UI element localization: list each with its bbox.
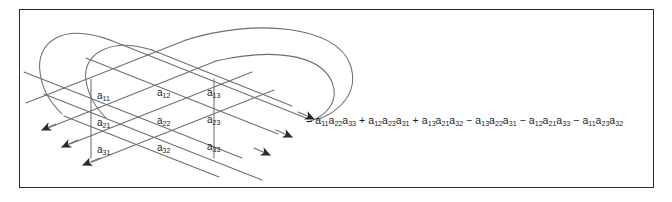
formula-sign-5: − <box>517 114 529 126</box>
formula-term-3: a13a21a32 <box>422 114 463 126</box>
formula-sign-6: − <box>570 114 582 126</box>
matrix-cell-a32: a32 <box>157 142 170 154</box>
arrowhead-down-right-group <box>254 112 314 155</box>
wrap-arcs-group <box>40 28 353 122</box>
matrix-cell-a31: a31 <box>97 144 110 156</box>
formula-sign-2: + <box>356 114 368 126</box>
formula-sign-3: + <box>410 114 422 126</box>
determinant-expansion-formula: = a11a22a33 + a12a23a31 + a13a21a32 − a1… <box>306 114 623 126</box>
diagram-lines <box>24 28 353 187</box>
figure-frame: a11 a12 a13 a21 a22 a23 a31 a32 a33 = a1… <box>19 9 654 188</box>
formula-term-2: a12a23a31 <box>368 114 409 126</box>
matrix-cell-a22: a22 <box>157 115 170 127</box>
formula-term-1: a11a22a33 <box>315 114 356 126</box>
formula-term-4: a13a22a31 <box>475 114 516 126</box>
formula-term-5: a12a21a33 <box>529 114 570 126</box>
figure-root: a11 a12 a13 a21 a22 a23 a31 a32 a33 = a1… <box>0 0 672 202</box>
determinant-bars <box>91 79 214 158</box>
diagonal-down-right-group <box>24 72 262 180</box>
formula-sign-4: − <box>463 114 475 126</box>
matrix-cell-a11: a11 <box>97 90 110 102</box>
formula-term-6: a11a23a32 <box>582 114 623 126</box>
sarrus-diagram: a11 a12 a13 a21 a22 a23 a31 a32 a33 <box>20 10 655 189</box>
formula-equals: = <box>306 114 315 126</box>
